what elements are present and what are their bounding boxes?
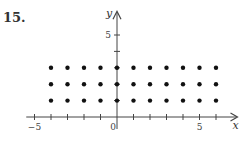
data-point: [164, 82, 168, 86]
data-point: [181, 66, 185, 70]
data-point: [98, 66, 102, 70]
data-point: [164, 66, 168, 70]
data-point: [131, 82, 135, 86]
data-point: [49, 66, 53, 70]
data-point: [131, 66, 135, 70]
data-point: [148, 66, 152, 70]
data-point: [131, 98, 135, 102]
data-point: [65, 82, 69, 86]
y-tick-label: 5: [105, 30, 111, 40]
data-point: [197, 98, 201, 102]
data-point: [115, 66, 119, 70]
data-point: [49, 98, 53, 102]
data-point: [98, 82, 102, 86]
data-point: [181, 82, 185, 86]
data-point: [49, 82, 53, 86]
x-tick-label: 5: [197, 122, 203, 132]
scatter-plot: −5055xy: [0, 0, 248, 145]
data-point: [82, 82, 86, 86]
y-axis-label: y: [105, 7, 113, 20]
x-tick-label: −5: [28, 122, 42, 132]
data-point: [214, 98, 218, 102]
data-point: [115, 82, 119, 86]
x-tick-label: 0: [110, 122, 116, 132]
data-point: [197, 66, 201, 70]
data-point: [65, 98, 69, 102]
data-point: [197, 82, 201, 86]
x-axis-label: x: [232, 119, 239, 132]
data-point: [214, 82, 218, 86]
data-point: [98, 98, 102, 102]
data-point: [82, 98, 86, 102]
data-point: [65, 66, 69, 70]
data-point: [148, 98, 152, 102]
data-point: [82, 66, 86, 70]
data-point: [115, 98, 119, 102]
data-point: [214, 66, 218, 70]
data-point: [164, 98, 168, 102]
data-point: [181, 98, 185, 102]
data-point: [148, 82, 152, 86]
